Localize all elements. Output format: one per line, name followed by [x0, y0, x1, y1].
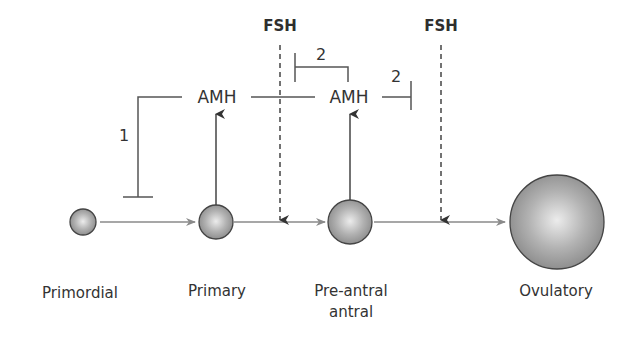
stage-primary-label: Primary: [188, 281, 246, 302]
primary-follicle-icon: [199, 205, 233, 239]
stage-preantral-line2: antral: [314, 302, 387, 323]
inhibition-1-bracket: [123, 97, 182, 197]
amh-left-label: AMH: [197, 87, 236, 107]
inhibition-2-upper-label: 2: [316, 45, 326, 64]
stage-preantral-line1: Pre-antral: [314, 281, 387, 302]
stage-primordial-label: Primordial: [42, 283, 118, 304]
ovulatory-follicle-icon: [510, 175, 604, 269]
fsh-right-label: FSH: [424, 17, 458, 35]
primordial-follicle-icon: [70, 209, 96, 235]
fsh-left-label: FSH: [263, 17, 297, 35]
amh-right-label: AMH: [329, 87, 368, 107]
inhibition-2-right-label: 2: [391, 67, 401, 86]
stage-ovulatory-label: Ovulatory: [519, 281, 593, 302]
preantral-follicle-icon: [328, 200, 372, 244]
stage-preantral-label: Pre-antral antral: [314, 281, 387, 323]
inhibition-1-label: 1: [119, 126, 129, 145]
